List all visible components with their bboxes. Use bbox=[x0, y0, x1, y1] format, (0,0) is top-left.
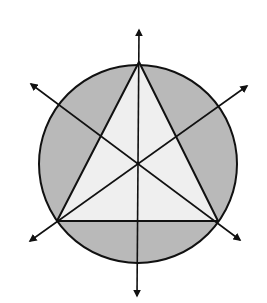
inscribed-triangle-diagram bbox=[0, 0, 267, 303]
centroid-point bbox=[137, 162, 140, 165]
